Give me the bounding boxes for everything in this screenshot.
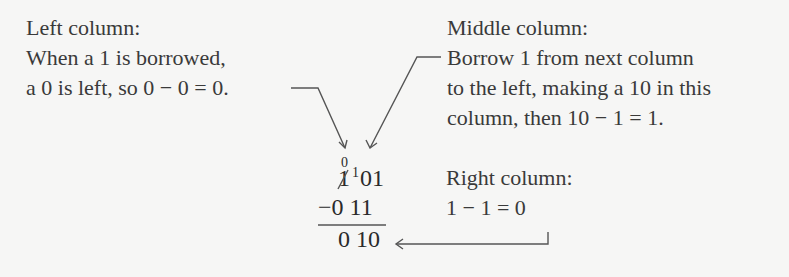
right-leader-line xyxy=(396,232,548,244)
left-leader-line xyxy=(291,88,345,148)
callout-lines xyxy=(0,0,789,277)
strike-mark xyxy=(338,170,348,189)
middle-leader-line xyxy=(370,57,441,148)
